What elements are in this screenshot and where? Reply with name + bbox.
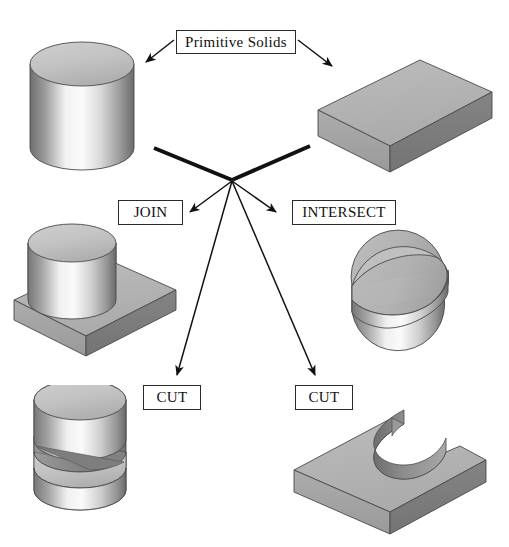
label-join: JOIN [118, 200, 183, 225]
line-block-to-hub [232, 146, 310, 180]
join-result-shape [14, 224, 176, 356]
diagram-canvas: Primitive Solids JOIN INTERSECT CUT CUT [0, 0, 509, 547]
cut-right-result-shape [294, 410, 486, 534]
label-cut-left: CUT [143, 385, 201, 410]
arrow-primitive-to-block [298, 40, 332, 66]
label-cut-right: CUT [295, 385, 353, 410]
label-intersect: INTERSECT [292, 200, 396, 225]
cylinder-primitive-shape [30, 42, 134, 170]
block-primitive-shape [318, 60, 492, 172]
hub-input-lines [154, 146, 310, 180]
intersect-result-shape [351, 230, 448, 351]
arrow-hub-to-join [190, 181, 232, 212]
label-primitive-solids: Primitive Solids [176, 30, 296, 54]
line-cylinder-to-hub [154, 148, 232, 180]
cut-left-result-shape [34, 380, 126, 510]
solid-modeling-illustration [0, 0, 509, 547]
arrow-primitive-to-cylinder [146, 40, 174, 62]
arrow-hub-to-cut-left [177, 181, 232, 375]
